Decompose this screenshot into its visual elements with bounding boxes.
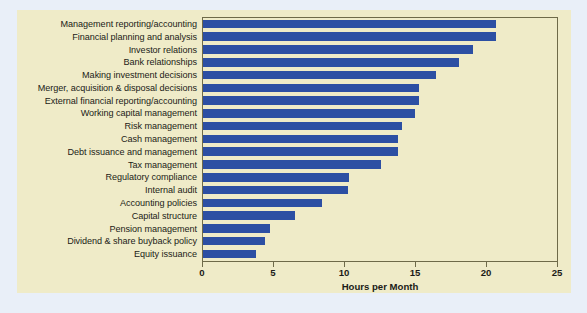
bar <box>203 173 349 182</box>
bar-row <box>203 210 558 223</box>
bar <box>203 32 496 41</box>
category-axis-labels: Management reporting/accountingFinancial… <box>17 18 201 261</box>
bar <box>203 135 398 144</box>
bar-row <box>203 69 558 82</box>
bar-row <box>203 146 558 159</box>
category-label: Merger, acquisition & disposal decisions <box>17 82 201 95</box>
category-label: Capital structure <box>17 210 201 223</box>
category-label: Making investment decisions <box>17 69 201 82</box>
category-label: Investor relations <box>17 44 201 57</box>
tick-label: 25 <box>552 267 563 278</box>
bar <box>203 199 322 208</box>
bar <box>203 71 436 80</box>
bar <box>203 45 473 54</box>
category-label: Dividend & share buyback policy <box>17 235 201 248</box>
bar <box>203 147 398 156</box>
bar <box>203 96 419 105</box>
bar <box>203 109 415 118</box>
bar-row <box>203 235 558 248</box>
tick-label: 5 <box>270 267 275 278</box>
bar <box>203 58 459 67</box>
category-label: Accounting policies <box>17 197 201 210</box>
x-axis-title: Hours per Month <box>202 281 558 292</box>
tick-label: 0 <box>199 267 204 278</box>
bar <box>203 20 496 29</box>
category-label: Working capital management <box>17 107 201 120</box>
category-label: Financial planning and analysis <box>17 31 201 44</box>
category-label: Regulatory compliance <box>17 171 201 184</box>
category-label: Tax management <box>17 159 201 172</box>
bar-row <box>203 223 558 236</box>
bar-row <box>203 56 558 69</box>
bar-row <box>203 171 558 184</box>
bar-row <box>203 184 558 197</box>
bar-row <box>203 95 558 108</box>
bar <box>203 186 348 195</box>
bar-row <box>203 18 558 31</box>
category-label: External financial reporting/accounting <box>17 95 201 108</box>
category-label: Bank relationships <box>17 56 201 69</box>
bar-row <box>203 159 558 172</box>
bar-row <box>203 133 558 146</box>
tick-label: 20 <box>481 267 492 278</box>
bar <box>203 122 402 131</box>
bar <box>203 211 295 220</box>
bar-row <box>203 44 558 57</box>
x-axis-ticks: 0510152025 <box>202 262 558 272</box>
category-label: Equity issuance <box>17 248 201 261</box>
chart-panel: Management reporting/accountingFinancial… <box>17 10 571 293</box>
bar <box>203 237 265 246</box>
chart-figure: Management reporting/accountingFinancial… <box>0 0 587 313</box>
bar-row <box>203 248 558 261</box>
bar <box>203 84 419 93</box>
category-label: Risk management <box>17 120 201 133</box>
tick-label: 15 <box>410 267 421 278</box>
bar <box>203 224 270 233</box>
bar-row <box>203 31 558 44</box>
bar-row <box>203 82 558 95</box>
bar-row <box>203 197 558 210</box>
bar-row <box>203 120 558 133</box>
bar <box>203 160 381 169</box>
category-label: Debt issuance and management <box>17 146 201 159</box>
category-label: Internal audit <box>17 184 201 197</box>
bars-container <box>203 18 558 261</box>
category-label: Pension management <box>17 223 201 236</box>
bar-row <box>203 107 558 120</box>
category-label: Cash management <box>17 133 201 146</box>
category-label: Management reporting/accounting <box>17 18 201 31</box>
tick-label: 10 <box>339 267 350 278</box>
bar <box>203 250 256 259</box>
